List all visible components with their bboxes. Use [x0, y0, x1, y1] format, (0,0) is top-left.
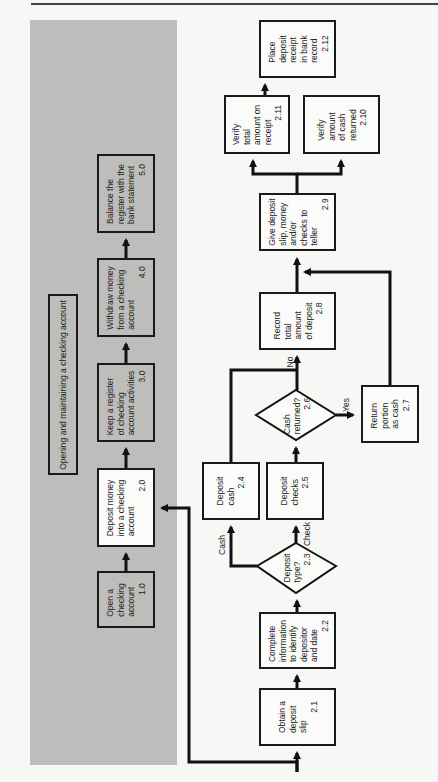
edge-label-cash: Cash — [217, 535, 227, 555]
step-number: 1.0 — [137, 583, 148, 617]
step-number: 2.7 — [401, 399, 412, 428]
step-label: Verify amount of cash returned — [315, 109, 357, 141]
step-number: 5.0 — [137, 164, 148, 224]
edge-label-check: Check — [302, 522, 312, 546]
step-label: Deposit cash — [215, 477, 236, 506]
step-label: Verify total amount on receipt — [231, 104, 273, 144]
step-number: 2.2 — [319, 619, 330, 661]
step-number: 2.3 — [302, 554, 312, 583]
overview-title: Opening and maintaining a checking accou… — [58, 300, 69, 470]
step-label: Deposit checks — [279, 477, 300, 506]
decision-label: Deposit type? — [282, 554, 302, 583]
step-label: Obtain a deposit slip — [277, 701, 308, 733]
step-label: Give deposit slip, money and/or checks t… — [266, 198, 318, 245]
step-2-7-return-cash[interactable]: Return portion as cash2.7 — [361, 385, 419, 443]
step-2-0-deposit-money[interactable]: Deposit money into a checking account2.0 — [97, 468, 155, 547]
step-number: 2.11 — [273, 104, 284, 144]
step-label: Return portion as cash — [369, 399, 400, 428]
step-2-4-deposit-cash[interactable]: Deposit cash2.4 — [202, 462, 260, 520]
edge-label-no: No — [285, 357, 295, 368]
step-number: 2.10 — [357, 109, 368, 141]
overview-title-box: Opening and maintaining a checking accou… — [48, 294, 78, 475]
step-number: 4.0 — [137, 266, 148, 329]
step-number: 2.1 — [308, 701, 319, 733]
step-2-12-place-receipt[interactable]: Place deposit receipt in bank record2.12 — [259, 20, 336, 78]
decision-label: Cash returned? — [282, 398, 302, 434]
step-number: 2.0 — [137, 479, 148, 536]
step-label: Keep a register of checking account acti… — [105, 370, 136, 435]
step-label: Place deposit receipt in bank record — [266, 35, 318, 62]
step-label: Complete information to identify deposit… — [266, 619, 318, 661]
step-label: Withdraw money from a checking account — [105, 266, 136, 329]
step-number: 2.5 — [300, 477, 311, 506]
step-2-9-give-to-teller[interactable]: Give deposit slip, money and/or checks t… — [259, 193, 336, 251]
step-label: Record total amount of deposit — [271, 303, 313, 340]
step-number: 3.0 — [137, 370, 148, 435]
step-1-0-open-account[interactable]: Open a checking account1.0 — [97, 571, 155, 628]
step-number: 2.12 — [319, 35, 330, 62]
edge-label-yes: Yes — [341, 398, 351, 412]
step-label: Open a checking account — [105, 583, 136, 617]
step-2-5-deposit-checks[interactable]: Deposit checks2.5 — [266, 462, 324, 520]
step-2-1-obtain-slip[interactable]: Obtain a deposit slip2.1 — [259, 688, 336, 746]
step-label: Balance the register with the bank state… — [105, 164, 136, 224]
step-4-0-withdraw-money[interactable]: Withdraw money from a checking account4.… — [97, 258, 155, 337]
step-5-0-balance-register[interactable]: Balance the register with the bank state… — [97, 154, 155, 233]
step-3-0-keep-register[interactable]: Keep a register of checking account acti… — [97, 363, 155, 442]
step-number: 2.4 — [236, 477, 247, 506]
step-2-11-verify-receipt[interactable]: Verify total amount on receipt2.11 — [224, 95, 290, 154]
step-2-8-record-total[interactable]: Record total amount of deposit2.8 — [259, 292, 336, 350]
step-2-10-verify-cash[interactable]: Verify amount of cash returned2.10 — [303, 95, 380, 154]
step-label: Deposit money into a checking account — [105, 479, 136, 536]
step-2-2-complete-info[interactable]: Complete information to identify deposit… — [259, 612, 336, 669]
step-number: 2.9 — [319, 198, 330, 245]
step-number: 2.6 — [302, 398, 312, 434]
step-number: 2.8 — [313, 303, 324, 340]
